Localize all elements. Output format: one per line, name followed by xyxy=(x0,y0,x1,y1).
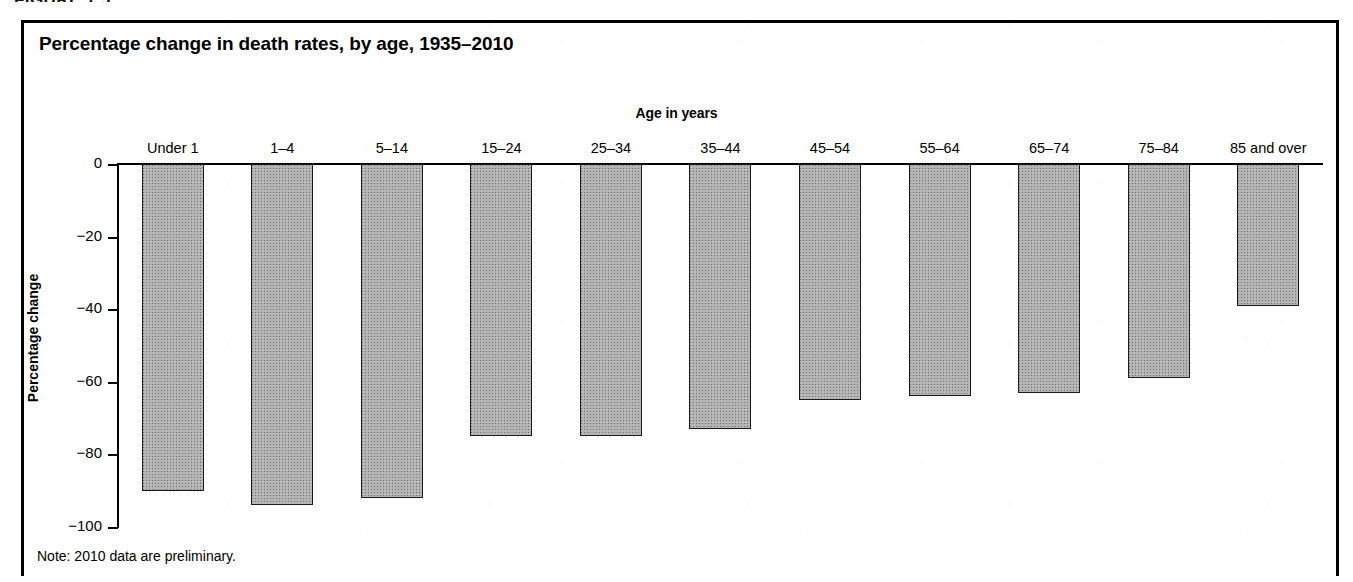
x-tick-label: 85 and over xyxy=(1230,140,1307,156)
x-tick-label: 55–64 xyxy=(919,140,959,156)
bar xyxy=(689,164,751,429)
y-tick: 0 xyxy=(108,164,118,166)
bar-series: Under 11–45–1415–2425–3435–4445–5455–646… xyxy=(118,164,1323,527)
x-tick-label: 15–24 xyxy=(481,140,521,156)
figure-number-label: FIGURE 1.5 xyxy=(14,0,111,2)
bar xyxy=(1018,164,1080,393)
chart-note: Note: 2010 data are preliminary. xyxy=(37,548,236,564)
bar-group: 25–34 xyxy=(556,164,666,527)
bar xyxy=(909,164,971,396)
bar-group: 15–24 xyxy=(447,164,557,527)
bar xyxy=(1128,164,1190,378)
y-tick-label: −20 xyxy=(42,227,102,244)
bar xyxy=(361,164,423,498)
bar-group: 85 and over xyxy=(1213,164,1323,527)
x-tick-label: Under 1 xyxy=(147,140,199,156)
bar xyxy=(251,164,313,505)
x-tick-label: 35–44 xyxy=(700,140,740,156)
y-axis-title: Percentage change xyxy=(25,243,41,433)
bar-group: 35–44 xyxy=(666,164,776,527)
bar-group: 65–74 xyxy=(994,164,1104,527)
y-tick: −20 xyxy=(108,237,118,239)
bar xyxy=(580,164,642,436)
bar-group: 55–64 xyxy=(885,164,995,527)
x-tick-label: 25–34 xyxy=(591,140,631,156)
bar xyxy=(470,164,532,436)
bar-group: 5–14 xyxy=(337,164,447,527)
bar xyxy=(799,164,861,400)
y-tick-label: −80 xyxy=(42,444,102,461)
y-tick-label: −60 xyxy=(42,372,102,389)
bar-group: 1–4 xyxy=(228,164,338,527)
y-tick-label: −40 xyxy=(42,299,102,316)
figure-page: FIGURE 1.5 Percentage change in death ra… xyxy=(0,0,1353,582)
y-tick: −80 xyxy=(108,454,118,456)
y-tick: −60 xyxy=(108,382,118,384)
x-tick-label: 5–14 xyxy=(376,140,408,156)
bar-group: 75–84 xyxy=(1104,164,1214,527)
bar-group: 45–54 xyxy=(775,164,885,527)
plot-area: 0−20−40−60−80−100 Under 11–45–1415–2425–… xyxy=(118,164,1323,527)
x-tick-label: 75–84 xyxy=(1139,140,1179,156)
y-tick-label: 0 xyxy=(42,154,102,171)
x-tick-label: 65–74 xyxy=(1029,140,1069,156)
bar xyxy=(142,164,204,491)
chart-title: Percentage change in death rates, by age… xyxy=(39,33,513,55)
y-tick: −100 xyxy=(108,527,118,529)
y-tick: −40 xyxy=(108,309,118,311)
x-tick-label: 1–4 xyxy=(270,140,294,156)
x-tick-label: 45–54 xyxy=(810,140,850,156)
x-axis-title: Age in years xyxy=(0,105,1353,121)
bar-group: Under 1 xyxy=(118,164,228,527)
y-tick-label: −100 xyxy=(42,517,102,534)
bar xyxy=(1237,164,1299,306)
